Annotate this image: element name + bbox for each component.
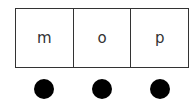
dot-marker	[34, 79, 54, 99]
letter-cell: p	[131, 9, 188, 67]
letter-row: m o p	[15, 8, 189, 68]
cell-label: p	[155, 29, 165, 47]
letter-cell: o	[74, 9, 132, 67]
dot-marker	[150, 79, 170, 99]
cell-label: o	[97, 29, 106, 47]
cell-label: m	[37, 29, 52, 47]
dot-marker	[92, 79, 112, 99]
letter-cell: m	[16, 9, 74, 67]
